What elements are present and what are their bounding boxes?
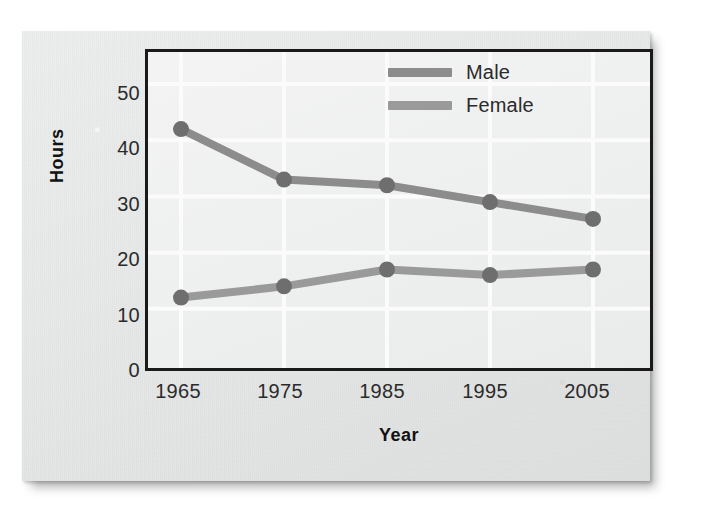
legend-swatch-male-icon	[388, 68, 452, 77]
data-point-male-1965[interactable]	[173, 121, 189, 137]
legend: Male Female	[388, 62, 534, 115]
x-tick-1965: 1965	[155, 380, 201, 403]
data-point-female-1995[interactable]	[482, 267, 498, 283]
data-point-female-1985[interactable]	[379, 261, 395, 277]
x-tick-1985: 1985	[359, 380, 405, 403]
x-tick-2005: 2005	[564, 380, 610, 403]
plot-frame: Male Female	[145, 49, 653, 371]
y-tick-0: 0	[96, 359, 140, 382]
y-tick-40: 40	[96, 137, 140, 160]
y-tick-30: 30	[96, 193, 140, 216]
legend-label-female: Female	[466, 95, 534, 115]
data-point-female-2005[interactable]	[585, 261, 601, 277]
data-point-male-1995[interactable]	[482, 194, 498, 210]
data-point-female-1965[interactable]	[173, 290, 189, 306]
legend-label-male: Male	[466, 62, 510, 82]
data-point-male-1985[interactable]	[379, 177, 395, 193]
x-tick-1995: 1995	[462, 380, 508, 403]
data-point-male-1975[interactable]	[276, 172, 292, 188]
y-axis-title: Hours	[47, 128, 68, 183]
x-axis-tick-labels: 1965 1975 1985 1995 2005	[145, 380, 653, 410]
chart-screenshot: 50 40 30 20 10 0 Hours Male Female	[0, 0, 715, 523]
legend-item-male[interactable]: Male	[388, 62, 534, 82]
x-tick-1975: 1975	[257, 380, 303, 403]
data-point-male-2005[interactable]	[585, 211, 601, 227]
y-tick-10: 10	[96, 304, 140, 327]
legend-swatch-female-icon	[388, 101, 452, 110]
y-tick-20: 20	[96, 248, 140, 271]
y-axis-tick-labels: 50 40 30 20 10 0	[90, 0, 140, 523]
data-point-female-1975[interactable]	[276, 278, 292, 294]
x-axis-title: Year	[145, 425, 653, 446]
legend-item-female[interactable]: Female	[388, 95, 534, 115]
y-tick-50: 50	[96, 82, 140, 105]
